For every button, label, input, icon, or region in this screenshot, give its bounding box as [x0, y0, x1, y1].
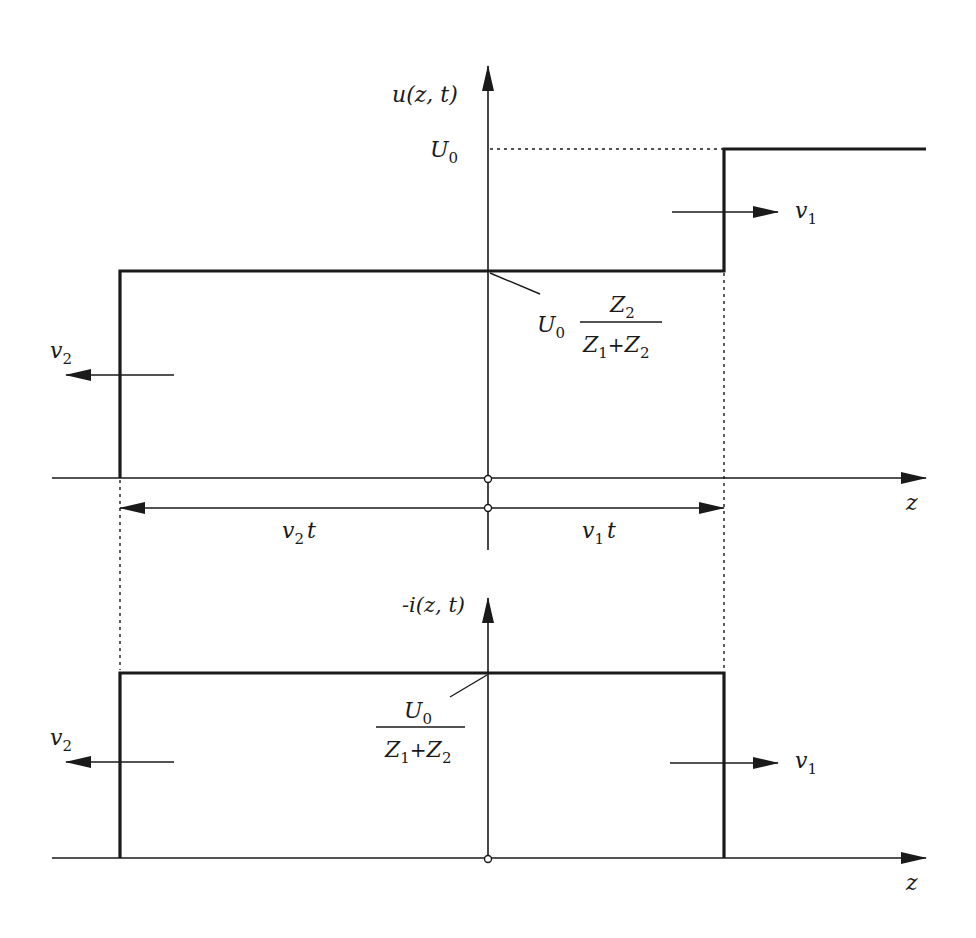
current-level-label: U0 Z1+Z2 — [376, 698, 465, 767]
current-y-axis-label: -i(z, t) — [402, 593, 465, 617]
voltage-mid-leader — [490, 273, 540, 294]
current-level-leader — [450, 675, 487, 697]
svg-text:Z1+Z2: Z1+Z2 — [582, 332, 649, 362]
voltage-y-axis-label: u(z, t) — [392, 82, 458, 107]
voltage-plot: u(z, t) U0 U0 Z2 Z1+Z2 v1 v2 z — [50, 66, 926, 550]
voltage-v1-label: v1 — [795, 198, 817, 228]
voltage-origin-marker — [485, 476, 492, 483]
v2t-label: v2t — [282, 518, 316, 548]
current-x-axis-label: z — [905, 870, 918, 895]
current-v2-label: v2 — [50, 725, 72, 755]
v1t-label: v1t — [582, 518, 616, 548]
svg-text:U0: U0 — [404, 698, 432, 728]
wave-diagram: u(z, t) U0 U0 Z2 Z1+Z2 v1 v2 z — [0, 0, 976, 938]
current-v1-label: v1 — [795, 748, 817, 778]
voltage-mid-level-label: U0 Z2 Z1+Z2 — [537, 292, 662, 362]
distance-origin-marker — [485, 505, 492, 512]
svg-text:U0: U0 — [537, 312, 565, 342]
svg-text:Z1+Z2: Z1+Z2 — [384, 737, 451, 767]
current-origin-marker — [485, 856, 492, 863]
u0-label: U0 — [430, 137, 458, 167]
voltage-v2-label: v2 — [50, 338, 72, 368]
voltage-x-axis-label: z — [905, 490, 918, 515]
current-plot: -i(z, t) U0 Z1+Z2 v1 v2 z — [50, 593, 926, 895]
svg-text:Z2: Z2 — [609, 292, 635, 322]
